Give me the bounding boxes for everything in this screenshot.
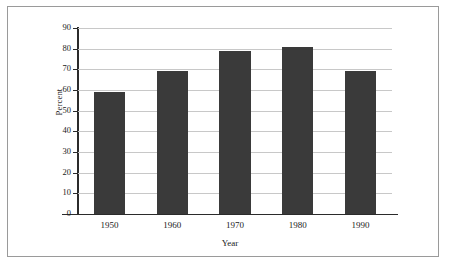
y-axis-tick-label: 40 (47, 125, 71, 136)
x-axis-tick-label: 1960 (141, 219, 204, 231)
y-axis-tick-label: 0 (47, 208, 71, 219)
bar[interactable] (282, 47, 313, 214)
y-axis-tick-label: 80 (47, 43, 71, 54)
y-axis-tick-label: 20 (47, 167, 71, 178)
x-axis-title: Year (60, 238, 400, 249)
bar[interactable] (219, 51, 250, 214)
y-axis-tick-label: 90 (47, 22, 71, 33)
bar-group[interactable] (282, 28, 313, 214)
bar[interactable] (157, 71, 188, 214)
y-axis-tick-label: 70 (47, 63, 71, 74)
x-axis-tick-label: 1970 (204, 219, 267, 231)
y-axis-tick-label: 30 (47, 146, 71, 157)
bar-group[interactable] (94, 28, 125, 214)
y-axis-tick-mark (73, 214, 78, 215)
bar-group[interactable] (157, 28, 188, 214)
y-axis-tick-label: 60 (47, 84, 71, 95)
x-axis-tick-label: 1980 (266, 219, 329, 231)
bar[interactable] (345, 71, 376, 214)
x-axis-tick-label: 1990 (329, 219, 392, 231)
plot-area: 0102030405060708090 (78, 28, 392, 214)
bar-group[interactable] (345, 28, 376, 214)
x-axis-tick-labels: 19501960197019801990 (78, 219, 392, 233)
y-axis-tick-label: 50 (47, 105, 71, 116)
bar-chart: Percent 0102030405060708090 195019601970… (0, 0, 449, 267)
bar[interactable] (94, 92, 125, 214)
bars-group (78, 28, 392, 214)
gridline (78, 214, 392, 215)
y-axis-tick-label: 10 (47, 187, 71, 198)
bar-group[interactable] (219, 28, 250, 214)
x-axis-tick-label: 1950 (78, 219, 141, 231)
